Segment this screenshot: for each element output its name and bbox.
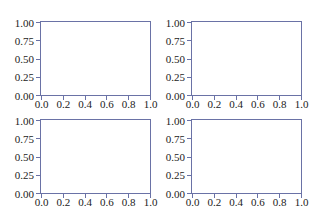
y-tick-mark [36,120,40,121]
x-tick-label: 0.2 [56,99,70,110]
y-tick-label: 0.00 [166,90,185,101]
y-tick-mark [36,40,40,41]
y-tick-mark [187,95,191,96]
x-tick-label: 0.8 [122,99,136,110]
y-tick-mark [187,22,191,23]
y-tick-label: 0.75 [166,133,185,144]
y-tick-mark [36,175,40,176]
y-tick-label: 1.00 [166,17,185,28]
x-tick-label: 0.0 [186,197,200,208]
subplot-top-left: 0.000.250.500.751.000.00.20.40.60.81.0 [40,21,151,96]
x-tick-label: 0.0 [186,99,200,110]
y-tick-mark [187,59,191,60]
y-tick-label: 0.50 [15,54,34,65]
y-tick-label: 0.25 [15,170,34,181]
y-tick-label: 0.75 [166,35,185,46]
y-tick-mark [36,157,40,158]
x-tick-label: 0.8 [273,197,287,208]
y-tick-label: 1.00 [15,115,34,126]
y-tick-label: 0.25 [166,72,185,83]
x-tick-label: 0.4 [229,99,243,110]
y-tick-label: 0.50 [166,152,185,163]
x-tick-label: 0.6 [100,197,114,208]
subplot-top-right: 0.000.250.500.751.000.00.20.40.60.81.0 [191,21,302,96]
subplot-bottom-left: 0.000.250.500.751.000.00.20.40.60.81.0 [40,119,151,194]
y-tick-mark [36,95,40,96]
y-tick-mark [36,77,40,78]
x-tick-label: 1.0 [144,99,158,110]
x-tick-label: 0.8 [122,197,136,208]
y-tick-label: 1.00 [166,115,185,126]
y-tick-label: 0.75 [15,133,34,144]
x-tick-label: 1.0 [144,197,158,208]
y-tick-label: 0.00 [15,188,34,199]
y-tick-label: 0.00 [166,188,185,199]
y-tick-mark [187,157,191,158]
x-tick-label: 0.8 [273,99,287,110]
x-tick-label: 0.6 [251,197,265,208]
x-tick-label: 0.2 [56,197,70,208]
y-tick-mark [187,138,191,139]
x-tick-label: 0.6 [251,99,265,110]
y-tick-mark [36,22,40,23]
x-tick-label: 0.4 [78,197,92,208]
y-tick-mark [187,77,191,78]
y-tick-mark [187,40,191,41]
x-tick-label: 1.0 [295,99,309,110]
y-tick-mark [187,120,191,121]
y-tick-label: 0.75 [15,35,34,46]
x-tick-label: 0.4 [78,99,92,110]
y-tick-label: 0.25 [166,170,185,181]
y-tick-label: 0.25 [15,72,34,83]
subplot-bottom-right: 0.000.250.500.751.000.00.20.40.60.81.0 [191,119,302,194]
x-tick-label: 0.4 [229,197,243,208]
y-tick-mark [187,193,191,194]
y-tick-mark [36,138,40,139]
x-tick-label: 0.2 [207,99,221,110]
y-tick-label: 0.50 [166,54,185,65]
y-tick-label: 1.00 [15,17,34,28]
x-tick-label: 0.0 [35,99,49,110]
x-tick-label: 1.0 [295,197,309,208]
y-tick-mark [36,193,40,194]
x-tick-label: 0.2 [207,197,221,208]
y-tick-label: 0.50 [15,152,34,163]
y-tick-mark [36,59,40,60]
x-tick-label: 0.0 [35,197,49,208]
y-tick-label: 0.00 [15,90,34,101]
y-tick-mark [187,175,191,176]
x-tick-label: 0.6 [100,99,114,110]
